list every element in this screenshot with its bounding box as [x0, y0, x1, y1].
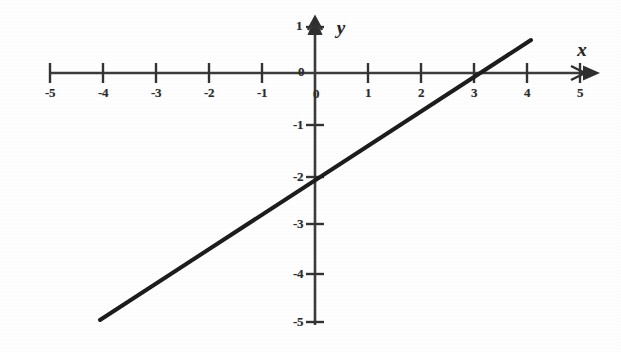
x-tick-label-neg4: -4 — [98, 85, 108, 101]
coordinate-plane: -5 -4 -3 -2 -1 0 1 2 3 4 5 1 0 -1 -2 -3 … — [0, 0, 621, 352]
x-tick-label-4: 4 — [524, 85, 530, 101]
y-tick-label-1: 1 — [296, 18, 302, 34]
x-tick-label-2: 2 — [418, 85, 424, 101]
graph-figure — [0, 0, 621, 352]
x-tick-label-neg1: -1 — [257, 85, 267, 101]
x-tick-label-neg3: -3 — [151, 85, 161, 101]
x-axis-name-label: x — [577, 39, 587, 61]
x-tick-label-5: 5 — [577, 85, 583, 101]
x-tick-label-3: 3 — [471, 85, 477, 101]
x-tick-label-1: 1 — [365, 85, 371, 101]
x-tick-label-neg5: -5 — [45, 85, 55, 101]
y-tick-label-neg1: -1 — [293, 117, 303, 133]
x-tick-label-zero: 0 — [313, 86, 319, 102]
x-axis — [50, 66, 600, 81]
y-tick-label-neg5: -5 — [293, 314, 303, 330]
y-tick-label-neg2: -2 — [293, 169, 303, 185]
x-tick-label-neg2: -2 — [204, 85, 214, 101]
y-tick-label-neg4: -4 — [293, 266, 303, 282]
y-axis-name-label: y — [337, 17, 345, 39]
y-tick-label-zero: 0 — [298, 64, 304, 80]
y-axis — [308, 17, 323, 325]
y-tick-label-neg3: -3 — [293, 216, 303, 232]
graph-canvas: -5 -4 -3 -2 -1 0 1 2 3 4 5 1 0 -1 -2 -3 … — [0, 0, 621, 352]
